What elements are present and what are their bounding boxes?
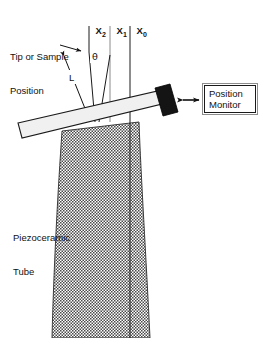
figure-canvas: X2 X1 X0 Tip or Sample Position θ L Piez… <box>0 0 264 338</box>
position-monitor-line-2: Monitor <box>209 99 241 110</box>
tube-length-label: L <box>69 72 74 83</box>
x1-axis-label: X1 <box>106 14 127 51</box>
tip-position-line-2: Position <box>10 85 69 96</box>
sensor-target-block <box>155 84 178 116</box>
position-monitor-inner: Position Monitor <box>204 85 256 113</box>
theta-angle-label: θ <box>92 51 98 62</box>
x0-axis-label: X0 <box>126 14 147 51</box>
position-monitor-box: Position Monitor <box>202 83 258 115</box>
tip-position-label: Tip or Sample Position <box>10 29 69 119</box>
position-monitor-line-1: Position <box>209 88 243 99</box>
piezoceramic-tube-label: Piezoceramic Tube <box>13 210 70 300</box>
tube-label-line-1: Piezoceramic <box>13 232 70 243</box>
tip-position-line-1: Tip or Sample <box>10 51 69 62</box>
tube-label-line-2: Tube <box>13 266 70 277</box>
x2-axis-label: X2 <box>85 14 106 51</box>
